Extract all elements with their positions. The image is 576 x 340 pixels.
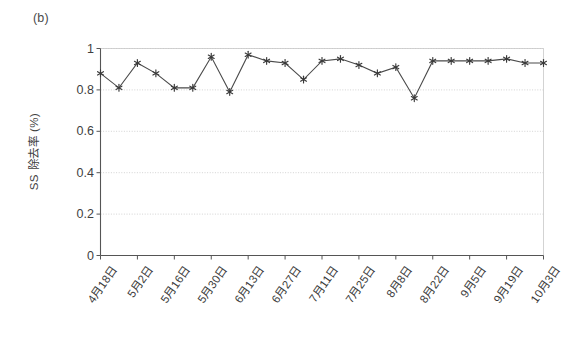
figure-panel-b: (b) SS 除去率 (%) 00.20.40.60.81 4月18日5月2日5… — [0, 0, 576, 340]
x-tick-label: 10月3日 — [525, 262, 562, 306]
x-tick-label: 5月30日 — [193, 262, 230, 306]
x-tick-label: 5月2日 — [123, 262, 157, 300]
x-tick-label: 8月22日 — [415, 262, 452, 306]
x-tick-label: 6月27日 — [267, 262, 304, 306]
x-tick-label: 7月11日 — [304, 262, 341, 305]
x-tick-label: 9月19日 — [488, 262, 525, 306]
x-tick-label: 5月16日 — [156, 262, 193, 306]
x-tick-label: 9月5日 — [455, 262, 489, 300]
x-tick-label: 8月8日 — [381, 262, 415, 300]
x-tick-label: 7月25日 — [341, 262, 378, 306]
x-tick-label: 6月13日 — [230, 262, 267, 306]
x-axis-tick-labels: 4月18日5月2日5月16日5月30日6月13日6月27日7月11日7月25日8… — [0, 0, 576, 340]
x-tick-label: 4月18日 — [82, 262, 119, 306]
